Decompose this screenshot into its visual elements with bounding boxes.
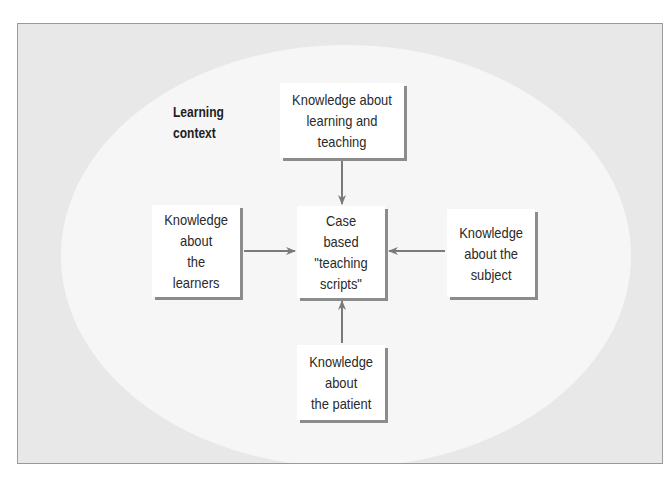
node-label: Case based "teaching scripts" [314,210,367,294]
node-patient: Knowledge about the patient [297,345,385,420]
node-label: Knowledge about learning and teaching [292,89,392,152]
node-label: Knowledge about the learners [164,209,228,293]
node-case-based-teaching-scripts: Case based "teaching scripts" [297,206,385,298]
node-learning-and-teaching: Knowledge about learning and teaching [280,83,404,158]
node-label: Knowledge about the subject [459,222,523,285]
node-subject: Knowledge about the subject [447,209,535,297]
node-learners: Knowledge about the learners [152,205,240,297]
node-label: Knowledge about the patient [309,351,373,414]
